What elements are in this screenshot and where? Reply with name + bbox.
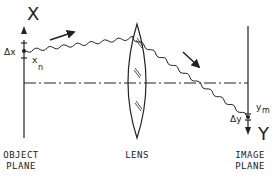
image-point-subscript: m xyxy=(262,106,270,115)
object-point-subscript: n xyxy=(38,63,43,72)
object-point-dot xyxy=(22,49,26,53)
image-point-dot xyxy=(246,115,250,119)
object-width-label: Δx xyxy=(4,47,16,57)
image-axis-arrowhead xyxy=(245,127,251,135)
image-plane-label-line1: IMAGE xyxy=(235,150,265,160)
object-axis-arrowhead xyxy=(21,26,27,34)
optical-diagram: X Δx x n Y y m Δy OBJECT PLANE LENS IMAG… xyxy=(0,0,278,178)
image-axis-label: Y xyxy=(257,123,270,144)
lens-hatching xyxy=(134,38,143,111)
image-width-label: Δy xyxy=(230,114,242,124)
object-plane-label-line1: OBJECT xyxy=(3,150,39,160)
object-axis-label: X xyxy=(27,3,39,24)
lens-label: LENS xyxy=(125,150,149,160)
incoming-direction-arrow xyxy=(50,32,74,40)
image-plane-label-line2: PLANE xyxy=(235,161,265,171)
object-plane-label-line2: PLANE xyxy=(6,161,36,171)
outgoing-direction-arrow xyxy=(183,52,199,67)
